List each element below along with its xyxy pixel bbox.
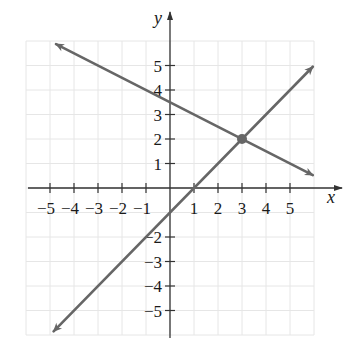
intersection-points <box>237 134 247 144</box>
y-tick-label: −3 <box>144 253 162 272</box>
x-tick-label: −5 <box>37 199 55 218</box>
x-tick-label: 4 <box>262 199 271 218</box>
y-tick-label: −5 <box>144 302 162 321</box>
x-tick-label: −4 <box>61 199 80 218</box>
y-tick-label: −4 <box>144 277 163 296</box>
y-axis-label: y <box>152 8 162 28</box>
intersection-point <box>237 134 247 144</box>
x-axis-label: x <box>326 187 335 207</box>
coordinate-plane: −5−4−3−2−112345 54321−2−3−4−5 x y <box>0 0 354 351</box>
line-decreasing <box>56 44 313 175</box>
axes <box>28 12 342 338</box>
x-tick-label: −2 <box>109 199 127 218</box>
x-tick-label: 1 <box>190 199 199 218</box>
y-tick-label: 1 <box>154 155 163 174</box>
y-tick-label: 5 <box>154 57 163 76</box>
x-tick-label: 2 <box>214 199 223 218</box>
x-tick-label: −3 <box>85 199 103 218</box>
y-tick-label: 3 <box>154 106 163 125</box>
x-tick-label: −1 <box>133 199 151 218</box>
x-tick-label: 3 <box>238 199 247 218</box>
x-tick-label: 5 <box>286 199 295 218</box>
y-tick-label: 2 <box>154 130 163 149</box>
